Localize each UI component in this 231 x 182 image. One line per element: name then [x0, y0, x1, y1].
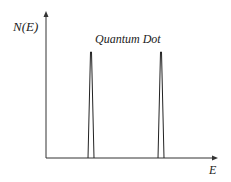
peak-1	[88, 52, 94, 158]
y-axis	[44, 11, 49, 158]
y-axis-label: N(E)	[12, 19, 38, 34]
x-axis-arrow-icon	[212, 156, 218, 161]
diagram-title: Quantum Dot	[95, 32, 161, 46]
peak-2	[158, 52, 164, 158]
dos-diagram: N(E) Quantum Dot E	[0, 0, 231, 182]
x-axis-label: E	[208, 163, 217, 177]
x-axis	[46, 156, 218, 161]
y-axis-arrow-icon	[44, 11, 49, 17]
